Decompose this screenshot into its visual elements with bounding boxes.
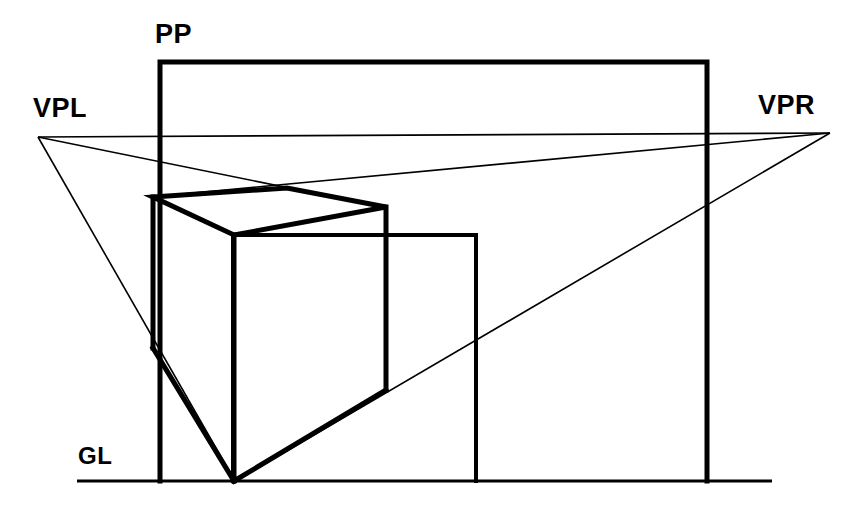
ray-vpr-to-cube-back-left-top <box>151 133 830 197</box>
perspective-cube-group <box>153 188 386 481</box>
picture-plane-group <box>160 62 707 481</box>
plan-square-group <box>233 235 476 481</box>
horizon-line <box>38 133 830 137</box>
picture-plane-rect <box>160 62 707 481</box>
plan-square <box>233 235 476 481</box>
cube-base-right-edge <box>234 390 386 481</box>
label-picture-plane: PP <box>155 21 192 48</box>
cube-base-left-edge <box>153 348 234 481</box>
label-vanishing-point-left: VPL <box>33 95 87 122</box>
perspective-figure: PP VPL VPR GL <box>0 0 859 505</box>
construction-rays-group <box>38 133 830 483</box>
label-vanishing-point-right: VPR <box>758 92 815 119</box>
cube-top-face <box>153 188 386 235</box>
label-ground-line: GL <box>78 444 112 468</box>
perspective-drawing-canvas <box>0 0 859 505</box>
